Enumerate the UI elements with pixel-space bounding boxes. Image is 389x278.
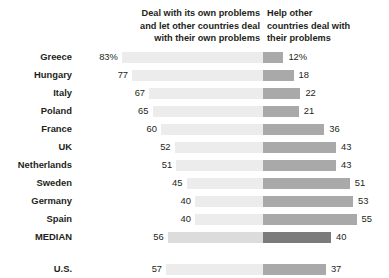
value-label-left: 56 [122, 230, 164, 243]
row-label-u-s: U.S. [0, 262, 72, 275]
bar-segment-help-others [263, 196, 353, 207]
value-label-right: 40 [336, 230, 376, 243]
bar-segment-help-others [263, 142, 336, 153]
bar-segment-own-problems [195, 214, 263, 225]
bar-segment-own-problems [168, 232, 263, 243]
bar-area: 5737 [76, 260, 389, 278]
table-row: Greece83%12% [0, 48, 389, 66]
table-row: MEDIAN5640 [0, 228, 389, 246]
table-row: Netherlands5143 [0, 156, 389, 174]
bar-segment-help-others [263, 178, 350, 189]
bar-segment-help-others [263, 88, 300, 99]
value-label-right: 12% [288, 50, 328, 63]
table-row: Hungary7718 [0, 66, 389, 84]
bar-segment-own-problems [175, 142, 263, 153]
header-deal-with-own-problems: Deal with its own problems and let other… [124, 7, 260, 45]
bar-segment-help-others [263, 160, 336, 171]
row-label-uk: UK [0, 140, 72, 153]
row-label-italy: Italy [0, 86, 72, 99]
bar-area: 4055 [76, 210, 389, 228]
table-row: Spain4055 [0, 210, 389, 228]
row-label-germany: Germany [0, 194, 72, 207]
value-label-left: 67 [103, 86, 145, 99]
bar-segment-own-problems [132, 70, 263, 81]
value-label-left: 77 [86, 68, 128, 81]
row-label-poland: Poland [0, 104, 72, 117]
row-label-spain: Spain [0, 212, 72, 225]
value-label-left: 60 [115, 122, 157, 135]
bar-segment-own-problems [153, 106, 264, 117]
bar-segment-help-others [263, 124, 324, 135]
table-row: France6036 [0, 120, 389, 138]
bar-segment-help-others [263, 264, 326, 275]
bar-segment-help-others [263, 214, 357, 225]
value-label-left: 57 [120, 262, 162, 275]
row-label-sweden: Sweden [0, 176, 72, 189]
value-label-right: 18 [299, 68, 339, 81]
bar-segment-own-problems [176, 160, 263, 171]
value-label-left: 83% [76, 50, 118, 63]
table-row: UK5243 [0, 138, 389, 156]
bar-area: 6722 [76, 84, 389, 102]
bar-segment-help-others [263, 232, 331, 243]
table-row: Poland6521 [0, 102, 389, 120]
header-help-other-countries: Help other countries deal with their pro… [267, 7, 387, 45]
value-label-left: 40 [149, 194, 191, 207]
row-label-france: France [0, 122, 72, 135]
value-label-right: 55 [362, 212, 389, 225]
value-label-right: 51 [355, 176, 389, 189]
row-label-hungary: Hungary [0, 68, 72, 81]
diverging-bar-chart: Deal with its own problems and let other… [0, 0, 389, 278]
bar-area: 5143 [76, 156, 389, 174]
value-label-right: 21 [304, 104, 344, 117]
bar-segment-own-problems [195, 196, 263, 207]
bar-area: 6521 [76, 102, 389, 120]
bar-segment-own-problems [122, 52, 263, 63]
table-row: Italy6722 [0, 84, 389, 102]
value-label-left: 51 [130, 158, 172, 171]
table-row: Sweden4551 [0, 174, 389, 192]
table-row: U.S.5737 [0, 260, 389, 278]
table-row: Germany4053 [0, 192, 389, 210]
bar-segment-own-problems [149, 88, 263, 99]
value-label-left: 40 [149, 212, 191, 225]
value-label-left: 45 [141, 176, 183, 189]
value-label-right: 22 [305, 86, 345, 99]
value-label-left: 65 [107, 104, 149, 117]
bar-segment-help-others [263, 70, 294, 81]
bar-segment-help-others [263, 52, 283, 63]
row-label-netherlands: Netherlands [0, 158, 72, 171]
bar-segment-help-others [263, 106, 299, 117]
row-label-median: MEDIAN [0, 230, 72, 243]
row-label-greece: Greece [0, 50, 72, 63]
value-label-right: 43 [341, 158, 381, 171]
value-label-right: 53 [358, 194, 389, 207]
chart-rows: Greece83%12%Hungary7718Italy6722Poland65… [0, 48, 389, 278]
bar-area: 83%12% [76, 48, 389, 66]
bar-area: 7718 [76, 66, 389, 84]
bar-segment-own-problems [187, 178, 264, 189]
bar-area: 6036 [76, 120, 389, 138]
value-label-right: 43 [341, 140, 381, 153]
bar-area: 4053 [76, 192, 389, 210]
bar-area: 5243 [76, 138, 389, 156]
value-label-left: 52 [129, 140, 171, 153]
bar-segment-own-problems [161, 124, 263, 135]
bar-area: 4551 [76, 174, 389, 192]
value-label-right: 37 [331, 262, 371, 275]
bar-area: 5640 [76, 228, 389, 246]
value-label-right: 36 [329, 122, 369, 135]
bar-segment-own-problems [166, 264, 263, 275]
chart-column-headers: Deal with its own problems and let other… [0, 0, 389, 48]
